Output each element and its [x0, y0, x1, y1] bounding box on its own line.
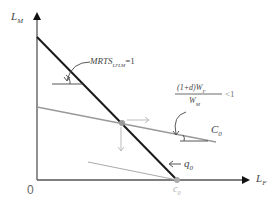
ratio-numerator: (1+d)WF	[177, 84, 205, 94]
economics-diagram	[0, 0, 279, 208]
corner-label-sub: 0	[177, 190, 180, 196]
axes	[33, 12, 250, 184]
ratio-rhs-text: <1	[225, 89, 235, 99]
intersection-point	[119, 120, 125, 126]
ratio-denominator-main: W	[189, 96, 196, 105]
down-arrow-icon	[118, 127, 124, 151]
mrts-annotation: MRTSLFLM=1	[90, 57, 135, 68]
mrts-sub: LFLM	[113, 63, 126, 68]
origin-label: 0	[27, 184, 34, 196]
x-axis-label-sub: F	[262, 179, 266, 187]
cost-line-c0	[37, 107, 216, 142]
isoquant-label: q0	[184, 158, 193, 172]
y-axis-label-sub: M	[17, 17, 23, 25]
ratio-numerator-sub: F	[202, 89, 205, 94]
cost-line-label-sub: 0	[218, 130, 222, 138]
ratio-denominator: WM	[189, 97, 200, 107]
q0-arrow-icon	[169, 161, 181, 167]
y-axis-arrow-icon	[33, 12, 41, 20]
y-axis-label: LM	[11, 11, 23, 25]
lower-cost-line	[88, 162, 177, 180]
x-axis-label: LF	[256, 173, 266, 187]
ratio-denominator-sub: M	[196, 102, 200, 107]
ratio-rhs: <1	[225, 90, 235, 99]
mrts-rhs: =1	[125, 56, 135, 66]
origin-label-text: 0	[27, 183, 34, 197]
x-axis-arrow-icon	[242, 176, 250, 184]
isoquant-label-sub: 0	[190, 164, 194, 172]
ratio-numerator-main: (1+d)W	[177, 83, 202, 92]
mrts-main: MRTS	[90, 56, 113, 66]
right-arrow-icon	[127, 117, 149, 123]
cost-line-label: C0	[211, 124, 222, 138]
corner-label: c0	[173, 184, 180, 196]
